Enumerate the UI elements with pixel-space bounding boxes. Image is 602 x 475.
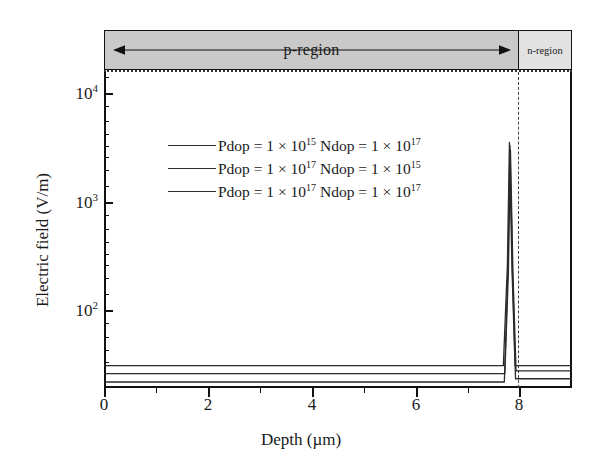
legend-item: Pdop = 1 × 1017 Ndop = 1 × 1017 [168, 180, 421, 203]
legend-line-swatch [168, 145, 216, 146]
legend-label-prefix: Pdop = 1 × 10 [218, 137, 306, 154]
legend-label: Pdop = 1 × 1015 Ndop = 1 × 1017 [218, 136, 421, 155]
legend-label-exp2: 15 [411, 159, 421, 170]
data-curves [0, 0, 602, 475]
legend-label-prefix: Pdop = 1 × 10 [218, 183, 306, 200]
legend-item: Pdop = 1 × 1015 Ndop = 1 × 1017 [168, 134, 421, 157]
legend-label-exp2: 17 [411, 182, 421, 193]
electric-field-depth-chart: p-region n-region 104 103 102 [0, 0, 602, 475]
legend-line-swatch [168, 168, 216, 169]
legend-label-mid: Ndop = 1 × 10 [316, 137, 411, 154]
legend-label-mid: Ndop = 1 × 10 [316, 160, 411, 177]
legend-label: Pdop = 1 × 1017 Ndop = 1 × 1015 [218, 159, 421, 178]
legend-label-exp1: 17 [306, 159, 316, 170]
legend: Pdop = 1 × 1015 Ndop = 1 × 1017 Pdop = 1… [168, 134, 421, 203]
legend-line-swatch [168, 191, 216, 192]
legend-label-exp1: 15 [306, 136, 316, 147]
legend-label-prefix: Pdop = 1 × 10 [218, 160, 306, 177]
legend-label-mid: Ndop = 1 × 10 [316, 183, 411, 200]
legend-label: Pdop = 1 × 1017 Ndop = 1 × 1017 [218, 182, 421, 201]
legend-label-exp1: 17 [306, 182, 316, 193]
legend-item: Pdop = 1 × 1017 Ndop = 1 × 1015 [168, 157, 421, 180]
legend-label-exp2: 17 [411, 136, 421, 147]
